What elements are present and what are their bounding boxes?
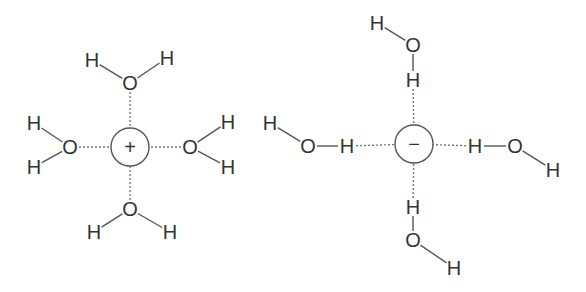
hydrogen-bond	[433, 145, 466, 146]
oxygen-atom: O	[300, 135, 316, 157]
oh-covalent-bond	[137, 63, 159, 78]
hydrogen-atom: H	[340, 135, 354, 157]
oxygen-atom: O	[405, 229, 421, 251]
hydrogen-atom: H	[447, 257, 461, 279]
oh-covalent-bond	[523, 151, 546, 165]
oxygen-atom: O	[122, 72, 138, 94]
hydrogen-atom: H	[370, 12, 384, 34]
oh-covalent-bond	[138, 213, 162, 227]
hydrogen-atom: H	[160, 47, 174, 69]
oxygen-atom: O	[507, 135, 523, 157]
hydrogen-bond	[413, 163, 414, 198]
oh-covalent-bond	[385, 28, 406, 41]
hydrogen-atom: H	[546, 159, 560, 181]
oh-covalent-bond	[198, 127, 221, 142]
oh-covalent-bond	[198, 151, 220, 163]
anion-hydration-shell: −OHHOHHOHHOHH	[263, 12, 560, 279]
hydrogen-atom: H	[263, 112, 277, 134]
hydrogen-atom: H	[27, 112, 41, 134]
oxygen-atom: O	[405, 34, 421, 56]
oh-covalent-bond	[102, 214, 123, 227]
oh-covalent-bond	[420, 245, 446, 263]
oh-covalent-bond	[41, 128, 62, 142]
oh-covalent-bond	[278, 128, 301, 142]
hydrogen-atom: H	[406, 69, 420, 91]
hydrogen-atom: H	[221, 111, 235, 133]
cation-symbol: +	[124, 136, 136, 158]
hydrogen-atom: H	[27, 156, 41, 178]
hydrogen-bond	[356, 145, 395, 146]
hydrogen-atom: H	[87, 221, 101, 243]
hydrogen-atom: H	[406, 196, 420, 218]
hydrogen-bond	[413, 89, 414, 125]
hydrogen-atom: H	[468, 135, 482, 157]
oxygen-atom: O	[182, 136, 198, 158]
hydrogen-atom: H	[85, 49, 99, 71]
cation-hydration-shell: +OHHOHHOHHOHH	[27, 47, 235, 243]
oh-covalent-bond	[100, 65, 123, 79]
hydration-diagram: +OHHOHHOHHOHH −OHHOHHOHHOHH	[0, 0, 586, 292]
oxygen-atom: O	[122, 198, 138, 220]
oxygen-atom: O	[62, 136, 78, 158]
anion-symbol: −	[408, 133, 420, 155]
hydrogen-atom: H	[163, 221, 177, 243]
oh-covalent-bond	[42, 151, 62, 162]
hydrogen-atom: H	[221, 156, 235, 178]
